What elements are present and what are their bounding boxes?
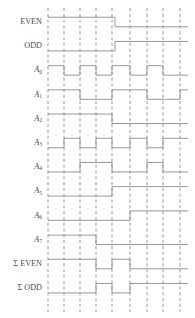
signal-label-a0: A0 [33,65,42,75]
signal-label-sum-even: Σ EVEN [13,259,42,268]
waveform-a2 [48,114,188,124]
waveform-even [48,17,188,27]
timing-diagram-figure: EVENODDA0A1A2A3A4A5A6A7Σ EVENΣ ODD [0,0,195,318]
signal-labels-group: EVENODDA0A1A2A3A4A5A6A7Σ EVENΣ ODD [13,17,42,292]
waveform-a1 [48,90,188,100]
signal-label-odd: ODD [24,41,42,50]
waveform-sum-odd [48,283,188,293]
waveforms-group [48,17,188,293]
signal-label-a1: A1 [33,89,42,99]
signal-label-even: EVEN [20,17,42,26]
waveform-a7 [48,235,188,245]
signal-label-a6: A6 [33,210,42,220]
waveform-a5 [48,187,188,197]
signal-label-a3: A3 [33,138,42,148]
signal-label-a5: A5 [33,186,42,196]
waveform-sum-even [48,259,188,269]
signal-label-a7: A7 [33,235,42,245]
waveform-a6 [48,211,188,221]
signal-label-sum-odd: Σ ODD [17,283,42,292]
grid-lines-group [48,8,180,312]
timing-diagram-canvas: EVENODDA0A1A2A3A4A5A6A7Σ EVENΣ ODD [0,0,195,318]
signal-label-a4: A4 [33,162,42,172]
waveform-a0 [48,66,188,76]
waveform-odd [48,41,188,51]
signal-label-a2: A2 [33,114,42,124]
waveform-a4 [48,162,188,172]
waveform-a3 [48,138,188,148]
